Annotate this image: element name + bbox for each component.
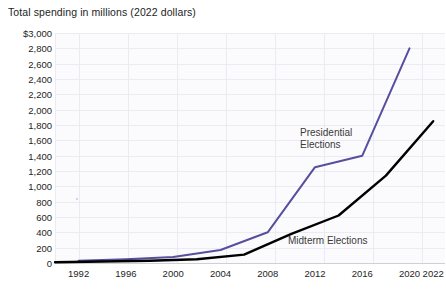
chart-root: Total spending in millions (2022 dollars… <box>0 0 446 291</box>
series-label-presidential-elections: Presidential Elections <box>300 127 352 151</box>
series-lines <box>0 0 446 291</box>
series-label-midterm-elections: Midterm Elections <box>288 235 367 247</box>
line-presidential-elections <box>79 48 410 260</box>
